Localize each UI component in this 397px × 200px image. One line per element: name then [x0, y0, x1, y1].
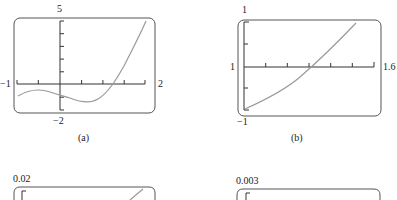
chart-a — [14, 18, 155, 113]
chart-a-frame — [14, 18, 155, 113]
chart-c-ymax-label: 0.02 — [13, 174, 31, 184]
chart-b-y-ticks — [244, 22, 249, 110]
chart-b-x-ticks — [266, 62, 374, 67]
chart-b-ymax-label: 1 — [242, 5, 247, 15]
chart-b-caption: (b) — [291, 133, 303, 143]
chart-b-xmin-label: 1 — [230, 62, 235, 72]
chart-b — [238, 20, 381, 116]
chart-d — [237, 189, 380, 200]
chart-d-frame — [237, 189, 380, 200]
chart-a-caption: (a) — [78, 133, 89, 143]
chart-c — [14, 187, 155, 200]
chart-b-ymin-label: −1 — [237, 117, 248, 127]
chart-a-xmax-label: 2 — [158, 79, 163, 89]
chart-a-ymin-label: −2 — [53, 116, 64, 126]
chart-c-frame — [14, 187, 155, 200]
chart-c-y-axis — [22, 191, 26, 200]
chart-a-ymax-label: 5 — [57, 4, 62, 14]
chart-b-curve — [245, 23, 356, 109]
chart-a-x-ticks — [17, 80, 145, 84]
chart-a-curve — [18, 21, 146, 102]
chart-b-xmax-label: 1.6 — [383, 62, 396, 72]
chart-a-xmin-label: −1 — [0, 79, 11, 89]
chart-d-y-axis — [246, 193, 250, 200]
figure-canvas — [0, 0, 397, 200]
chart-c-curve — [130, 189, 143, 200]
chart-d-ymax-label: 0.003 — [236, 176, 259, 186]
